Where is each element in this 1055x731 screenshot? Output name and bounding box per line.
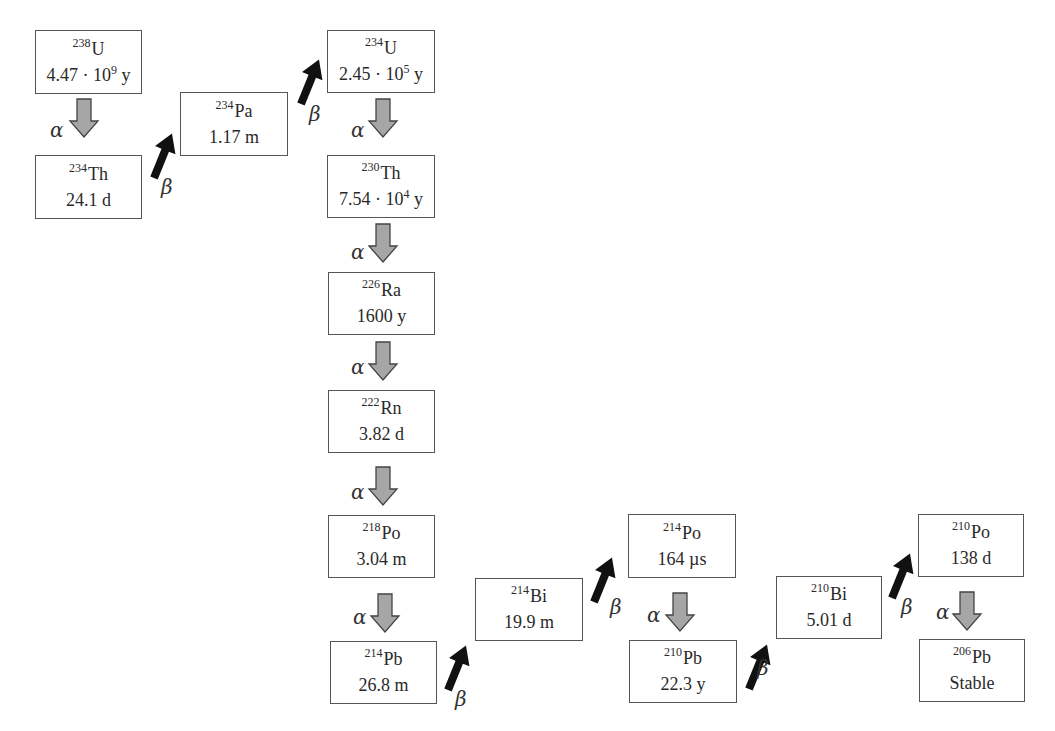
mass-number: 210 xyxy=(952,519,970,533)
mass-number: 234 xyxy=(216,98,234,112)
element-symbol: U xyxy=(384,38,397,58)
half-life: 22.3 y xyxy=(661,672,706,696)
element-symbol: Bi xyxy=(530,586,547,606)
mass-number: 222 xyxy=(361,395,379,409)
alpha-arrow-icon xyxy=(371,594,399,632)
nuclide-box-rn222: 222Rn 3.82 d xyxy=(328,390,435,453)
element-symbol: Pb xyxy=(972,647,991,667)
half-life: 138 d xyxy=(951,546,992,570)
nuclide-name: 222Rn xyxy=(361,397,401,419)
mass-number: 234 xyxy=(69,161,87,175)
nuclide-box-bi210: 210Bi 5.01 d xyxy=(776,576,882,639)
half-life-unit: y xyxy=(117,65,131,85)
nuclide-box-pb206: 206Pb Stable xyxy=(919,639,1025,702)
half-life: 2.45 · 105 y xyxy=(339,62,423,86)
half-life-unit: y xyxy=(410,189,424,209)
beta-label: β xyxy=(455,687,467,711)
half-life: 1.17 m xyxy=(209,125,259,149)
nuclide-name: 210Bi xyxy=(811,583,847,605)
element-symbol: Pb xyxy=(383,649,402,669)
beta-label: β xyxy=(757,656,769,680)
half-life: 24.1 d xyxy=(66,188,111,212)
half-life-mantissa: 4.47 · 10 xyxy=(47,65,112,85)
mass-number: 214 xyxy=(364,646,382,660)
nuclide-box-th234: 234Th 24.1 d xyxy=(35,155,142,219)
nuclide-name: 238U xyxy=(73,38,105,60)
mass-number: 238 xyxy=(73,36,91,50)
nuclide-box-pa234: 234Pa 1.17 m xyxy=(180,92,288,156)
nuclide-name: 214Pb xyxy=(364,648,402,670)
nuclide-box-po218: 218Po 3.04 m xyxy=(328,515,435,578)
alpha-label: α xyxy=(351,355,365,379)
mass-number: 214 xyxy=(511,583,529,597)
half-life: 3.04 m xyxy=(356,547,406,571)
half-life: 19.9 m xyxy=(504,610,554,634)
nuclide-name: 214Po xyxy=(663,522,701,544)
alpha-label: α xyxy=(50,118,64,142)
nuclide-name: 206Pb xyxy=(953,646,991,668)
alpha-label: α xyxy=(351,240,365,264)
half-life: 164 µs xyxy=(658,547,707,571)
element-symbol: Rn xyxy=(380,398,401,418)
nuclide-box-pb210: 210Pb 22.3 y xyxy=(629,640,737,703)
element-symbol: Ra xyxy=(381,280,401,300)
mass-number: 218 xyxy=(362,520,380,534)
element-symbol: Pa xyxy=(235,101,253,121)
alpha-arrow-icon xyxy=(369,224,397,262)
nuclide-name: 234U xyxy=(365,37,397,59)
alpha-label: α xyxy=(647,603,661,627)
alpha-arrow-icon xyxy=(70,99,98,137)
element-symbol: Po xyxy=(971,522,990,542)
alpha-label: α xyxy=(936,600,950,624)
nuclide-name: 234Th xyxy=(69,163,108,185)
beta-arrow-icon xyxy=(291,55,329,108)
element-symbol: Th xyxy=(381,163,401,183)
mass-number: 210 xyxy=(811,581,829,595)
half-life: 5.01 d xyxy=(807,608,852,632)
nuclide-name: 230Th xyxy=(362,162,401,184)
beta-label: β xyxy=(161,175,173,199)
nuclide-box-po214: 214Po 164 µs xyxy=(628,514,736,578)
mass-number: 226 xyxy=(362,277,380,291)
half-life: 1600 y xyxy=(357,304,407,328)
nuclide-box-u238: 238U 4.47 · 109 y xyxy=(35,30,142,94)
nuclide-name: 214Bi xyxy=(511,585,547,607)
element-symbol: Pb xyxy=(683,648,702,668)
beta-label: β xyxy=(309,102,321,126)
element-symbol: Bi xyxy=(830,584,847,604)
element-symbol: Po xyxy=(381,523,400,543)
nuclide-name: 210Po xyxy=(952,521,990,543)
beta-label: β xyxy=(901,595,913,619)
half-life-mantissa: 7.54 · 10 xyxy=(339,189,404,209)
nuclide-name: 234Pa xyxy=(216,100,253,122)
alpha-arrow-icon xyxy=(369,467,397,505)
half-life-unit: y xyxy=(410,64,424,84)
half-life: 7.54 · 104 y xyxy=(339,187,423,211)
nuclide-box-pb214: 214Pb 26.8 m xyxy=(330,641,437,704)
mass-number: 214 xyxy=(663,520,681,534)
mass-number: 230 xyxy=(362,160,380,174)
nuclide-box-bi214: 214Bi 19.9 m xyxy=(475,578,583,641)
half-life: Stable xyxy=(950,671,995,695)
alpha-arrow-icon xyxy=(369,99,397,137)
alpha-arrow-icon xyxy=(369,342,397,380)
alpha-label: α xyxy=(353,605,367,629)
nuclide-name: 210Pb xyxy=(664,647,702,669)
nuclide-name: 218Po xyxy=(362,522,400,544)
alpha-arrow-icon xyxy=(953,592,981,630)
alpha-label: α xyxy=(351,480,365,504)
nuclide-box-th230: 230Th 7.54 · 104 y xyxy=(327,155,435,218)
alpha-arrow-icon xyxy=(666,593,694,631)
element-symbol: U xyxy=(92,39,105,59)
mass-number: 234 xyxy=(365,35,383,49)
half-life: 26.8 m xyxy=(358,673,408,697)
nuclide-box-po210: 210Po 138 d xyxy=(918,514,1024,577)
mass-number: 210 xyxy=(664,645,682,659)
element-symbol: Po xyxy=(682,523,701,543)
nuclide-box-ra226: 226Ra 1600 y xyxy=(328,272,435,335)
half-life: 4.47 · 109 y xyxy=(47,63,131,87)
mass-number: 206 xyxy=(953,644,971,658)
element-symbol: Th xyxy=(88,164,108,184)
nuclide-box-u234: 234U 2.45 · 105 y xyxy=(327,30,435,93)
half-life: 3.82 d xyxy=(359,422,404,446)
